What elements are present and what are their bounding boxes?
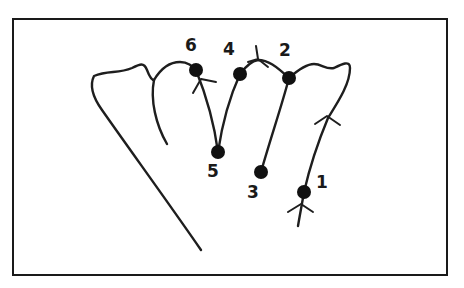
- point-3: [254, 165, 268, 179]
- point-5: [211, 145, 225, 159]
- point-1: [297, 185, 311, 199]
- point-label-5: 5: [207, 163, 219, 180]
- point-label-2: 2: [279, 42, 291, 59]
- point-label-4: 4: [223, 41, 235, 58]
- point-4: [233, 67, 247, 81]
- point-label-6: 6: [185, 37, 197, 54]
- point-6: [189, 63, 203, 77]
- point-label-1: 1: [316, 174, 328, 191]
- point-2: [282, 71, 296, 85]
- point-label-3: 3: [247, 184, 259, 201]
- segment-5-4: [218, 74, 240, 152]
- palm-outline-left: [92, 65, 201, 251]
- ring-finger-inner-line: [153, 80, 167, 144]
- segment-2-3: [261, 78, 289, 172]
